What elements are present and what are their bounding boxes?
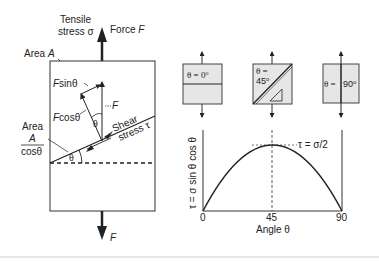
area2-label: Area [22,121,44,132]
y-axis-label: τ = σ sin θ cos θ [187,136,198,209]
x-tick-90: 90 [336,212,348,223]
bottom-force-label: F [110,232,117,243]
sample-0-label: θ = 0o [187,70,208,80]
bottom-force-arrow [97,211,107,240]
sample-45-label-line1: θ = [256,66,268,76]
tensile-label-line1: Tensile [60,14,92,25]
fsin-label: Fsinθ [53,78,78,89]
force-label: Force F [110,24,145,35]
x-axis-label: Angle θ [256,224,290,235]
theta-bottom-label: θ [69,152,74,163]
sample-theta-90: θ = 90o [323,52,359,117]
area-label: Area A [24,48,55,59]
area2-numerator: A [28,133,36,144]
sample-theta-0: θ = 0o [183,52,222,117]
fcos-label: Fcosθ [53,112,81,123]
x-tick-45: 45 [266,212,278,223]
tensile-label-line2: stress σ [58,26,94,37]
specimen-diagram: Tensile stress σ Force F Area A θ θ Fsin… [21,14,155,243]
x-tick-0: 0 [200,212,206,223]
sample-90-label: θ = [324,79,336,89]
area2-denominator: cosθ [21,146,43,157]
shear-stress-curve [203,145,342,211]
f-label: F [112,100,119,111]
shear-stress-chart: τ = σ/2 0 45 90 Angle θ τ = σ sin θ cos … [187,130,348,235]
peak-annotation: τ = σ/2 [298,139,328,150]
sample-theta-45: θ = 45o [253,52,292,117]
theta-top-label: θ [93,118,98,129]
top-force-arrow [97,27,107,61]
stress-diagram: Tensile stress σ Force F Area A θ θ Fsin… [0,0,379,261]
